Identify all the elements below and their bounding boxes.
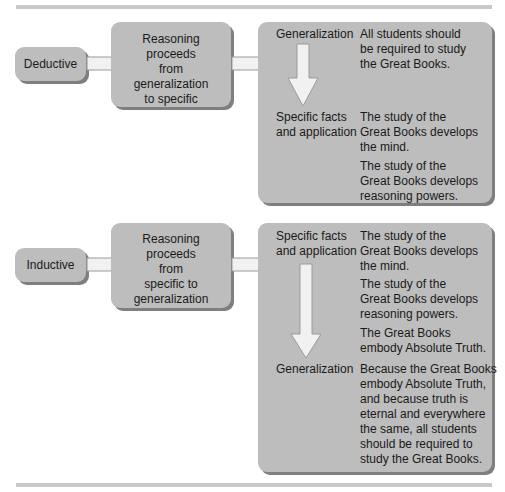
deductive-term-generalization: Generalization — [276, 27, 353, 42]
process-line: Reasoning — [134, 32, 209, 47]
process-line: generalization — [134, 292, 209, 307]
deductive-statement: The study of the Great Books develops th… — [360, 110, 478, 155]
inductive-statement: The Great Books embody Absolute Truth. — [360, 326, 486, 356]
deductive-term-specific: Specific facts and application — [276, 110, 357, 140]
inductive-statement: The study of the Great Books develops re… — [360, 277, 478, 322]
process-line: proceeds — [134, 47, 209, 62]
process-line: from — [134, 62, 209, 77]
deductive-label: Deductive — [24, 57, 77, 71]
inductive-label-box: Inductive — [15, 248, 86, 282]
deductive-process-box: Reasoning proceeds from generalization t… — [111, 22, 231, 107]
deductive-statement: All students should be required to study… — [360, 27, 466, 72]
inductive-statement: The study of the Great Books develops th… — [360, 229, 478, 274]
inductive-process-box: Reasoning proceeds from specific to gene… — [111, 223, 231, 308]
process-line: specific to — [134, 277, 209, 292]
inductive-term-generalization: Generalization — [276, 362, 353, 377]
deductive-statement: The study of the Great Books develops re… — [360, 159, 478, 204]
inductive-statement: Because the Great Books embody Absolute … — [360, 362, 497, 467]
process-line: proceeds — [134, 247, 209, 262]
down-arrow-icon — [286, 43, 320, 109]
process-line: generalization — [134, 77, 209, 92]
down-arrow-icon — [290, 263, 324, 361]
process-line: from — [134, 262, 209, 277]
top-rule — [16, 5, 492, 9]
inductive-label: Inductive — [26, 258, 74, 272]
bottom-rule — [16, 483, 492, 487]
deductive-label-box: Deductive — [15, 47, 86, 81]
process-line: Reasoning — [134, 232, 209, 247]
inductive-term-specific: Specific facts and application — [276, 229, 357, 259]
process-line: to specific — [134, 92, 209, 107]
